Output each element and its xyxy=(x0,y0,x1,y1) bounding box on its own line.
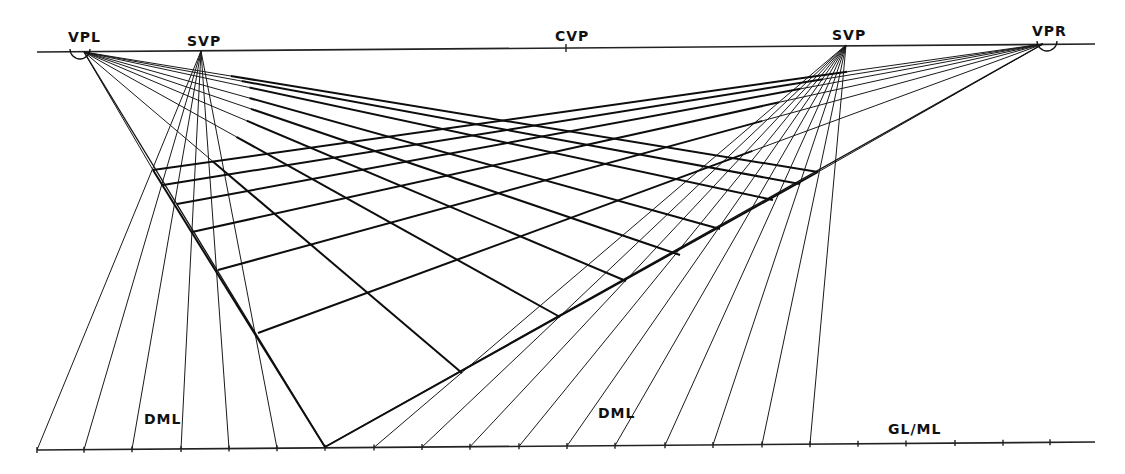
vpr-ray xyxy=(753,44,1043,151)
labels: VPL SVP CVP SVP VPR DML DML GL/ML xyxy=(68,23,1067,437)
svp-right-label: SVP xyxy=(832,27,866,43)
dml-ray-right xyxy=(810,45,846,444)
vpr-ray xyxy=(779,44,1043,102)
dml-label-left: DML xyxy=(144,411,181,427)
ground-line xyxy=(37,442,1095,450)
cvp-label: CVP xyxy=(555,28,589,44)
vpr-label: VPR xyxy=(1032,23,1067,39)
svp-left-label: SVP xyxy=(187,33,221,49)
grid-line-to-vpl xyxy=(251,109,680,255)
vpl-ray xyxy=(84,52,251,109)
vpl-ray xyxy=(84,52,213,161)
dml-ray-left xyxy=(37,51,201,450)
dml-ray-left xyxy=(201,51,277,448)
dml-ray-right xyxy=(422,45,846,447)
dml-ray-right xyxy=(713,45,846,445)
ground-line-label: GL/ML xyxy=(888,421,941,437)
grid-line-to-vpl xyxy=(247,121,626,281)
dml-label-right: DML xyxy=(598,405,635,421)
left-diagonal xyxy=(84,52,325,447)
construction-lines xyxy=(37,41,1095,453)
grid-line-to-vpl xyxy=(249,88,773,200)
vpr-ray xyxy=(847,44,1043,72)
vpl-label: VPL xyxy=(68,29,101,45)
vpl-ray xyxy=(84,52,249,88)
vpr-ray xyxy=(801,44,1043,89)
grid-line-to-vpr xyxy=(258,151,753,333)
perspective-diagram: VPL SVP CVP SVP VPR DML DML GL/ML xyxy=(0,0,1125,474)
vpl-ray xyxy=(84,52,247,121)
